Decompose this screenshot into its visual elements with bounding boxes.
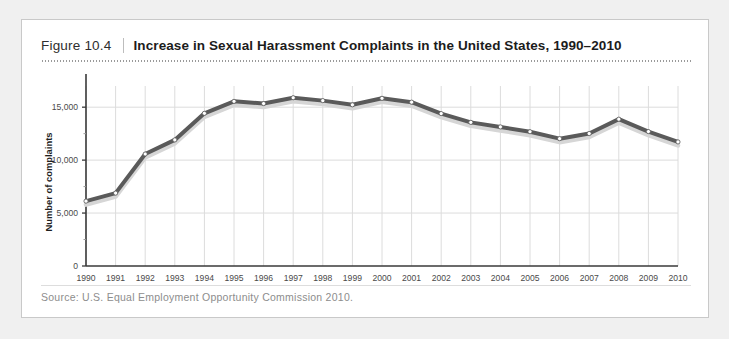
x-tick-label: 1994 bbox=[195, 273, 214, 283]
line-chart-svg: 05,00010,00015,000 199019911992199319941… bbox=[22, 20, 710, 319]
data-point-marker bbox=[321, 99, 325, 103]
data-point-marker bbox=[84, 199, 88, 203]
figure-card: Figure 10.4 Increase in Sexual Harassmen… bbox=[21, 19, 709, 318]
y-tick-label: 10,000 bbox=[52, 155, 79, 165]
x-tick-label: 1997 bbox=[284, 273, 303, 283]
x-tick-label: 2000 bbox=[372, 273, 391, 283]
x-tick-label: 2006 bbox=[550, 273, 569, 283]
chart-plot-area: 05,00010,00015,000 199019911992199319941… bbox=[22, 20, 710, 319]
data-point-marker bbox=[173, 138, 177, 142]
y-axis-title-text: Number of complaints bbox=[43, 133, 54, 232]
x-tick-label: 1992 bbox=[136, 273, 155, 283]
y-tick-label: 5,000 bbox=[56, 208, 78, 218]
x-tick-label: 1990 bbox=[76, 273, 95, 283]
x-axis-tick-labels: 1990199119921993199419951996199719981999… bbox=[76, 273, 687, 283]
x-tick-label: 2010 bbox=[668, 273, 687, 283]
x-tick-label: 1999 bbox=[343, 273, 362, 283]
data-point-marker bbox=[587, 131, 591, 135]
data-point-marker bbox=[558, 137, 562, 141]
x-tick-label: 2008 bbox=[609, 273, 628, 283]
y-tick-label: 15,000 bbox=[52, 102, 79, 112]
x-tick-label: 2007 bbox=[580, 273, 599, 283]
x-tick-label: 2009 bbox=[639, 273, 658, 283]
data-point-marker bbox=[528, 130, 532, 134]
source-note: Source: U.S. Equal Employment Opportunit… bbox=[41, 291, 353, 303]
data-point-marker bbox=[143, 152, 147, 156]
data-point-marker bbox=[380, 96, 384, 100]
data-point-marker bbox=[291, 96, 295, 100]
data-point-marker bbox=[202, 111, 206, 115]
data-point-marker bbox=[469, 120, 473, 124]
data-point-marker bbox=[439, 111, 443, 115]
data-point-marker bbox=[262, 101, 266, 105]
source-divider bbox=[41, 285, 691, 286]
x-tick-label: 1995 bbox=[224, 273, 243, 283]
page-background: Figure 10.4 Increase in Sexual Harassmen… bbox=[0, 0, 729, 339]
grid-lines bbox=[86, 86, 678, 266]
data-point-marker bbox=[617, 117, 621, 121]
x-tick-label: 1996 bbox=[254, 273, 273, 283]
y-axis-tick-labels: 05,00010,00015,000 bbox=[52, 102, 79, 271]
x-tick-label: 2004 bbox=[491, 273, 510, 283]
data-point-marker bbox=[646, 129, 650, 133]
x-tick-label: 2001 bbox=[402, 273, 421, 283]
x-tick-label: 1993 bbox=[165, 273, 184, 283]
x-tick-label: 1991 bbox=[106, 273, 125, 283]
data-point-marker bbox=[498, 125, 502, 129]
x-tick-label: 2005 bbox=[520, 273, 539, 283]
data-point-marker bbox=[410, 100, 414, 104]
x-tick-label: 2002 bbox=[432, 273, 451, 283]
data-point-marker bbox=[676, 140, 680, 144]
data-point-marker bbox=[232, 99, 236, 103]
x-tick-label: 1998 bbox=[313, 273, 332, 283]
y-tick-label: 0 bbox=[73, 261, 78, 271]
data-point-marker bbox=[114, 191, 118, 195]
y-axis-title: Number of complaints bbox=[43, 133, 54, 232]
data-point-marker bbox=[350, 103, 354, 107]
x-tick-label: 2003 bbox=[461, 273, 480, 283]
